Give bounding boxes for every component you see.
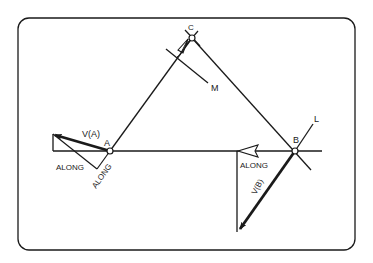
joint-b: [292, 148, 298, 154]
open-arrowhead-along-b: [238, 145, 258, 157]
label-a: A: [104, 138, 110, 148]
label-m: M: [211, 83, 219, 93]
label-b: B: [293, 135, 299, 145]
label-l: L: [314, 114, 319, 124]
label-vb: V(B): [250, 177, 266, 196]
label-va: V(A): [82, 129, 100, 139]
open-arrowhead-ac-2: [177, 39, 188, 57]
joint-c: [189, 35, 195, 41]
joint-a: [107, 148, 113, 154]
label-along-b: ALONG: [240, 161, 268, 170]
link-triangle: [53, 38, 322, 170]
diagram-frame: [18, 18, 355, 250]
label-along-a-horizontal: ALONG: [56, 163, 84, 172]
velocity-diagram: M L V(A) A ALONG ALONG V(B) B ALONG C: [0, 0, 373, 263]
label-c: C: [188, 23, 194, 32]
